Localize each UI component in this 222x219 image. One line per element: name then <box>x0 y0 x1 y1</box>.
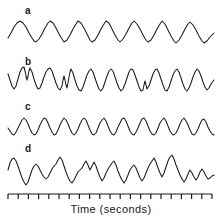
trace-d-path <box>8 155 214 185</box>
waveform-trace-c <box>0 100 222 145</box>
axis-caption: Time (seconds) <box>0 203 222 215</box>
time-axis <box>0 188 222 202</box>
waveform-figure: a b c d Time (seconds) <box>0 0 222 219</box>
waveform-trace-b <box>0 50 222 100</box>
waveform-trace-a <box>0 0 222 50</box>
trace-b-path <box>8 67 214 91</box>
axis-tick-group <box>8 194 212 199</box>
trace-c-path <box>8 118 214 135</box>
trace-a-path <box>8 21 214 43</box>
waveform-trace-d <box>0 145 222 193</box>
